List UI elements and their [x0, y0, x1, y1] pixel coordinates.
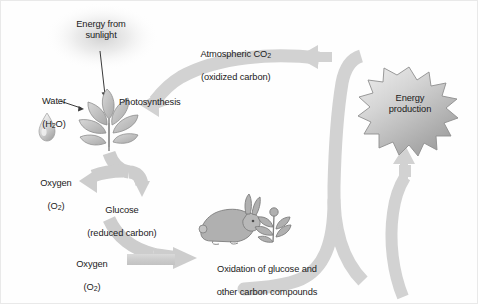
rabbit-icon	[199, 194, 260, 244]
label-energy-production: Energy production	[373, 93, 447, 116]
label-oxygen-bottom-formula: (O2)	[84, 282, 101, 292]
label-oxygen-top-text: Oxygen	[40, 178, 71, 188]
label-oxidation: Oxidation of glucose and other carbon co…	[189, 252, 335, 304]
label-oxygen-bottom: Oxygen (O2)	[51, 248, 123, 304]
flow-arrow-oxygen-to-oxidation	[127, 254, 175, 265]
label-glucose: Glucose (reduced carbon)	[53, 194, 181, 251]
flow-arrow-photosynthesis-branch	[79, 153, 150, 197]
label-oxidation-line1: Oxidation of glucose and	[217, 264, 317, 274]
dandelion-icon	[255, 208, 291, 242]
label-water: Water (H2O)	[13, 85, 85, 142]
label-atmospheric-co2: Atmospheric CO2 (oxidized carbon)	[191, 38, 315, 95]
label-glucose-line1: Glucose	[105, 205, 138, 215]
diagram-canvas: Energy from sunlight Water (H2O) Photosy…	[0, 0, 478, 304]
label-co2-line2: (oxidized carbon)	[201, 72, 271, 82]
label-photosynthesis: Photosynthesis	[119, 97, 213, 108]
label-water-formula: (H2O)	[42, 119, 66, 129]
label-co2-line1: Atmospheric CO2	[200, 49, 271, 59]
label-oxygen-bottom-text: Oxygen	[76, 259, 107, 269]
label-water-text: Water	[42, 96, 66, 106]
label-glucose-line2: (reduced carbon)	[87, 228, 156, 238]
flow-arrow-oxidation-to-energy	[391, 145, 415, 297]
label-energy-from-sunlight: Energy from sunlight	[45, 19, 157, 42]
label-oxidation-line2: other carbon compounds	[217, 287, 318, 297]
